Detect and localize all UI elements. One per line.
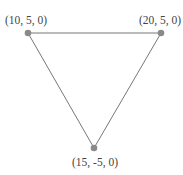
points — [25, 30, 165, 152]
point-label-b: (20, 5, 0) — [139, 14, 181, 27]
vertex-point — [158, 30, 165, 37]
vertex-point — [25, 30, 32, 37]
edges — [28, 33, 161, 148]
vertex-point — [91, 145, 98, 152]
triangle-diagram: (10, 5, 0) (20, 5, 0) (15, -5, 0) — [0, 0, 183, 175]
point-label-c: (15, -5, 0) — [72, 156, 118, 169]
triangle-edge — [28, 33, 94, 148]
point-label-a: (10, 5, 0) — [5, 14, 47, 27]
triangle-edge — [94, 33, 161, 148]
